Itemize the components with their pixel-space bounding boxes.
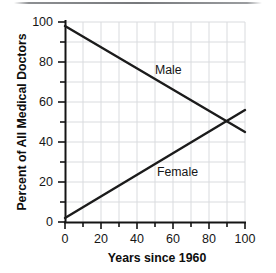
x-tick-label: 60 xyxy=(166,232,180,246)
x-tick-label: 20 xyxy=(94,232,108,246)
y-axis-title: Percent of All Medical Doctors xyxy=(15,33,29,210)
y-tick-label: 100 xyxy=(32,15,53,29)
series-label-male: Male xyxy=(155,63,182,77)
x-tick-label: 100 xyxy=(235,232,256,246)
y-tick-label: 80 xyxy=(39,55,53,69)
y-tick-label: 40 xyxy=(39,135,53,149)
y-tick-label: 0 xyxy=(46,215,53,229)
y-tick-label: 60 xyxy=(39,95,53,109)
x-tick-label: 0 xyxy=(62,232,69,246)
x-tick-label: 40 xyxy=(130,232,144,246)
series-label-female: Female xyxy=(157,165,198,179)
y-axis-ticks xyxy=(58,22,65,222)
x-axis-title: Years since 1960 xyxy=(108,251,207,265)
y-tick-label: 20 xyxy=(39,175,53,189)
x-tick-label: 80 xyxy=(202,232,216,246)
line-chart-figure: 100 80 60 40 20 0 0 20 40 60 80 100 Perc… xyxy=(0,0,276,273)
chart-svg: 100 80 60 40 20 0 0 20 40 60 80 100 Perc… xyxy=(0,0,276,273)
